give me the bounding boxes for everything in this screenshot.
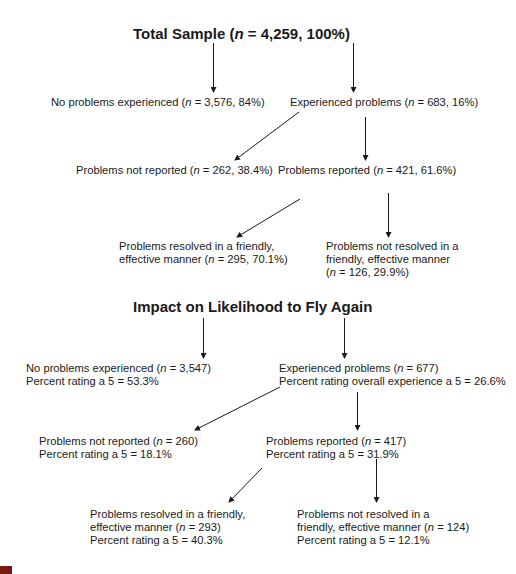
node-problems-not-reported: Problems not reported (n = 262, 38.4%) [76,164,273,177]
node2-problems-reported: Problems reported (n = 417) Percent rati… [266,435,406,461]
impact-title: Impact on Likelihood to Fly Again [133,298,372,316]
node2-problems-not-resolved: Problems not resolved in a friendly, eff… [297,508,469,547]
arrow-layer [0,0,516,574]
arrow-experienced-to-not-reported [235,112,299,160]
node2-problems-not-reported: Problems not reported (n = 260) Percent … [39,435,198,461]
node-no-problems: No problems experienced (n = 3,576, 84%) [51,96,265,109]
node-experienced-problems: Experienced problems (n = 683, 16%) [290,96,478,109]
node-problems-resolved: Problems resolved in a friendly, effecti… [119,240,288,266]
node2-experienced-problems: Experienced problems (n = 677) Percent r… [279,362,506,388]
arrow2-experienced-to-not-reported [195,387,280,430]
arrow-reported-to-resolved [237,199,300,237]
node-problems-not-resolved: Problems not resolved in a friendly, eff… [326,240,458,279]
node2-no-problems: No problems experienced (n = 3,547) Perc… [26,362,211,388]
node-problems-reported: Problems reported (n = 421, 61.6%) [278,164,456,177]
total-sample-title: Total Sample (n = 4,259, 100%) [133,25,350,43]
node2-problems-resolved: Problems resolved in a friendly, effecti… [90,508,245,547]
arrow2-reported-to-resolved [229,468,262,502]
corner-mark [0,566,12,574]
